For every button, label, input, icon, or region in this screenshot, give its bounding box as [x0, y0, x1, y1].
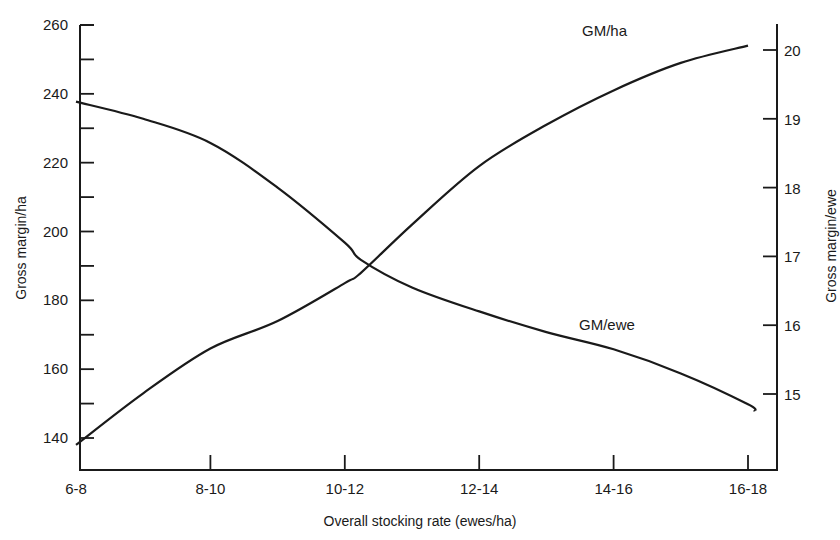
- left-y-tick-label: 160: [43, 360, 68, 377]
- x-tick-label: 8-10: [195, 480, 225, 497]
- right-y-tick-label: 16: [784, 317, 801, 334]
- left-y-tick-label: 140: [43, 429, 68, 446]
- right-y-tick-label: 20: [784, 42, 801, 59]
- right-y-tick-label: 18: [784, 180, 801, 197]
- series-line-gm-ha: [76, 46, 748, 445]
- left-y-tick-label: 260: [43, 16, 68, 33]
- series-lines: [76, 46, 756, 445]
- left-y-axis-title: Gross margin/ha: [13, 196, 29, 300]
- right-y-axis-title: Gross margin/ewe: [823, 189, 839, 303]
- right-y-tick-label: 15: [784, 386, 801, 403]
- axes: [79, 24, 778, 470]
- x-axis-title: Overall stocking rate (ewes/ha): [324, 513, 517, 529]
- series-line-gm-ewe: [76, 102, 756, 412]
- left-y-tick-label: 180: [43, 291, 68, 308]
- right-y-tick-label: 19: [784, 111, 801, 128]
- x-tick-label: 10-12: [326, 480, 364, 497]
- series-label-gm-ewe: GM/ewe: [579, 316, 635, 333]
- right-y-ticks: 151617181920: [763, 42, 801, 403]
- x-ticks: 6-88-1010-1212-1414-1616-18: [65, 455, 767, 497]
- series-label-gm-ha: GM/ha: [582, 22, 628, 39]
- x-tick-label: 14-16: [594, 480, 632, 497]
- x-tick-label: 16-18: [729, 480, 767, 497]
- left-y-tick-label: 240: [43, 85, 68, 102]
- right-y-tick-label: 17: [784, 248, 801, 265]
- x-tick-label: 12-14: [460, 480, 498, 497]
- chart: 140160180200220240260 151617181920 6-88-…: [0, 0, 840, 540]
- x-tick-label: 6-8: [65, 480, 87, 497]
- left-y-tick-label: 200: [43, 223, 68, 240]
- left-y-ticks: 140160180200220240260: [43, 16, 94, 446]
- left-y-tick-label: 220: [43, 154, 68, 171]
